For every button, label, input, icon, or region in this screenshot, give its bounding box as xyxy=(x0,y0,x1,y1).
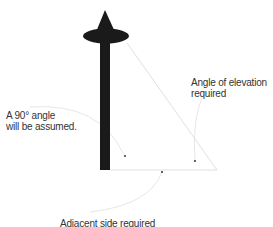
angle-elevation-label-line2: required xyxy=(191,88,267,99)
pole-icon xyxy=(83,10,129,170)
angle-elevation-label-line1: Angle of elevation xyxy=(191,77,267,88)
hypotenuse-line xyxy=(127,43,217,170)
adjacent-side-label: Adjacent side required xyxy=(60,218,155,227)
right-angle-label-line2: will be assumed. xyxy=(6,121,77,132)
right-angle-dot xyxy=(124,155,126,157)
elevation-dot xyxy=(194,160,196,162)
right-angle-label: A 90° angle will be assumed. xyxy=(6,110,77,132)
adjacent-callout xyxy=(90,172,162,212)
adjacent-dot xyxy=(161,171,163,173)
right-angle-label-line1: A 90° angle xyxy=(6,110,77,121)
angle-elevation-label: Angle of elevation required xyxy=(191,77,267,99)
